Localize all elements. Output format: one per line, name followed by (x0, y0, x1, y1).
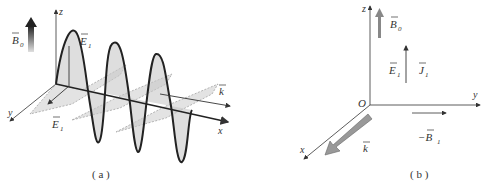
y-axis-label-b: y (472, 89, 478, 100)
neg-b1-subscript: 1 (437, 138, 441, 146)
k-label-a: k (219, 85, 225, 97)
b0-label-b: B (390, 18, 397, 30)
e1-top-subscript: 1 (88, 42, 92, 50)
b0-field-arrow-icon (25, 17, 37, 52)
x-axis-label-a: x (217, 125, 223, 136)
k-label-b: k (363, 142, 369, 154)
neg-b1-label: −B (418, 131, 432, 143)
e1-top-label: E (79, 35, 87, 47)
e1-subscript-b: 1 (397, 71, 401, 79)
b0-subscript: 0 (20, 41, 24, 49)
y-axis-label-a: y (7, 107, 13, 118)
origin-label: O (358, 97, 366, 109)
diagram-canvas: B 0 z x k y E 1 E 1 ( a ) (0, 0, 492, 186)
caption-b: ( b ) (410, 168, 429, 181)
e1-bottom-subscript: 1 (60, 125, 64, 133)
z-axis-label-b: z (361, 3, 366, 14)
e1-bottom-label: E (51, 118, 59, 130)
b0-subscript-b: 0 (398, 25, 402, 33)
z-axis-label-a: z (58, 6, 63, 17)
panel-b: z B 0 E 1 J 1 O y −B 1 x k (299, 3, 480, 181)
b0-label: B (12, 34, 19, 46)
j1-subscript: 1 (425, 71, 429, 79)
panel-a: B 0 z x k y E 1 E 1 ( a ) (7, 6, 230, 181)
e1-label-b: E (388, 64, 396, 76)
caption-a: ( a ) (92, 168, 110, 181)
b0-field-arrow-b-icon (375, 8, 384, 38)
x-axis-label-b: x (299, 144, 305, 155)
